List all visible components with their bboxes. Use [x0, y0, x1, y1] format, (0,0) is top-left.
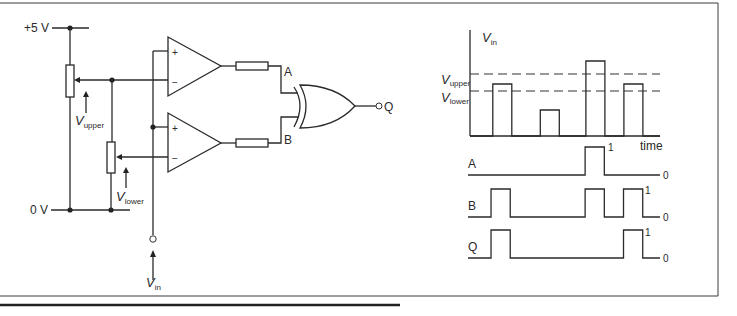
wiper-arrow-icon: [74, 77, 80, 83]
vin-waveform: [470, 61, 660, 136]
output-q-label: Q: [384, 100, 393, 114]
high-label: 1: [608, 142, 614, 153]
v-upper-threshold-label: Vupper: [441, 72, 470, 88]
arrow-up-icon: [83, 91, 89, 97]
opamp-plus-label: +: [172, 47, 178, 58]
window-comparator-figure: +5 V 0 V Vupper Vlower Vin: [0, 0, 737, 316]
trace-label-q: Q: [468, 240, 477, 254]
potentiometer-lower: [107, 142, 115, 173]
low-label: 0: [663, 253, 669, 264]
junction-dot: [150, 124, 155, 129]
resistor-a: [236, 62, 268, 70]
low-label: 0: [663, 212, 669, 223]
q-waveform: [468, 230, 660, 258]
v-upper-label: Vupper: [75, 113, 104, 130]
vin-terminal: [150, 236, 156, 242]
arrow-up-icon: [123, 167, 129, 173]
high-label: 1: [645, 227, 651, 238]
vin-axis-label: Vin: [482, 30, 497, 47]
wire-b: [268, 117, 298, 143]
timing-diagram: Vin time Vupper Vlower A 1 0 B 1 0 Q 1 0: [441, 30, 669, 264]
trace-label-b: B: [468, 199, 476, 213]
opamp-minus-label: −: [172, 153, 178, 164]
arrow-up-icon: [150, 250, 156, 257]
node-a-label: A: [284, 65, 292, 79]
time-label: time: [640, 139, 663, 153]
ground-label: 0 V: [30, 203, 48, 217]
output-terminal: [376, 103, 382, 109]
vin-label: Vin: [146, 275, 161, 292]
resistor-b: [236, 139, 268, 147]
trace-label-a: A: [468, 157, 476, 171]
circuit-diagram: +5 V 0 V Vupper Vlower Vin: [24, 21, 393, 292]
opamp-minus-label: −: [172, 77, 178, 88]
v-lower-threshold-label: Vlower: [441, 90, 469, 106]
opamp-plus-label: +: [172, 123, 178, 134]
a-waveform: [468, 147, 660, 175]
v-lower-label: Vlower: [116, 189, 144, 206]
potentiometer-upper: [66, 65, 74, 97]
wiper-arrow-icon: [116, 154, 122, 160]
wire-a: [268, 66, 298, 93]
high-label: 1: [645, 185, 651, 196]
b-waveform: [468, 189, 660, 217]
supply-label: +5 V: [24, 21, 49, 35]
xor-gate-icon: [300, 85, 355, 128]
low-label: 0: [663, 170, 669, 181]
node-b-label: B: [284, 133, 292, 147]
